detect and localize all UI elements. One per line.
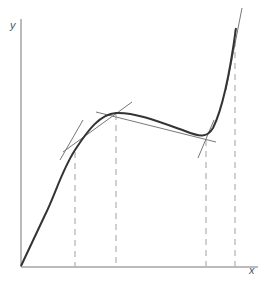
tangent-lines (60, 8, 242, 160)
y-axis-label: y (10, 19, 16, 31)
diagram-figure: y x (0, 0, 272, 289)
tangent-at-local-max-steep (63, 102, 132, 152)
function-curve (21, 28, 236, 266)
x-axis-label: x (249, 264, 255, 276)
tangent-at-local-max-flat (96, 112, 216, 142)
dashed-guides (75, 30, 235, 266)
diagram-canvas (0, 0, 272, 289)
